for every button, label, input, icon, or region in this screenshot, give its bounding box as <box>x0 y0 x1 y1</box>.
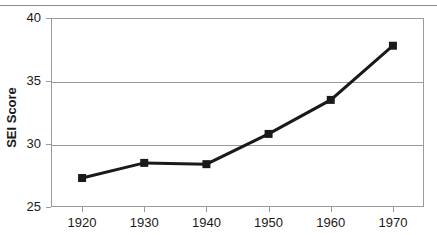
y-tick-label: 25 <box>7 199 41 214</box>
data-point-marker <box>327 96 335 104</box>
chart-figure: SEI Score 253035401920193019401950196019… <box>0 0 437 235</box>
data-point-marker <box>78 174 86 182</box>
x-tick-label: 1970 <box>363 215 423 230</box>
x-tick-mark <box>206 207 207 212</box>
x-tick-mark <box>269 207 270 212</box>
series-markers <box>78 42 397 182</box>
x-tick-label: 1920 <box>52 215 112 230</box>
y-tick-mark <box>46 81 51 82</box>
y-tick-label: 30 <box>7 136 41 151</box>
x-tick-label: 1960 <box>301 215 361 230</box>
data-point-marker <box>202 160 210 168</box>
y-tick-mark <box>46 207 51 208</box>
data-point-marker <box>265 130 273 138</box>
series-line <box>82 46 393 178</box>
y-tick-mark <box>46 18 51 19</box>
x-tick-label: 1930 <box>114 215 174 230</box>
y-tick-mark <box>46 144 51 145</box>
x-tick-mark <box>82 207 83 212</box>
data-point-marker <box>389 42 397 50</box>
data-point-marker <box>140 159 148 167</box>
x-tick-label: 1950 <box>239 215 299 230</box>
y-tick-label: 35 <box>7 73 41 88</box>
series-line-layer <box>0 0 437 235</box>
x-tick-mark <box>393 207 394 212</box>
x-tick-mark <box>144 207 145 212</box>
x-tick-label: 1940 <box>176 215 236 230</box>
x-tick-mark <box>331 207 332 212</box>
y-tick-label: 40 <box>7 10 41 25</box>
